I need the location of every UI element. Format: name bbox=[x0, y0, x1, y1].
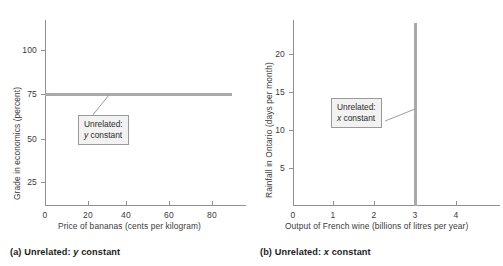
y-tick-a bbox=[41, 182, 45, 183]
x-tick-a bbox=[88, 201, 89, 205]
x-tick-label-a: 40 bbox=[117, 210, 135, 220]
panel-a-caption-prefix: (a) Unrelated: bbox=[10, 247, 73, 257]
x-tick-a bbox=[212, 201, 213, 205]
x-tick-label-b: 2 bbox=[365, 210, 383, 220]
y-tick-a bbox=[41, 139, 45, 140]
plot-area-a: Grade in economics (percent) 100 75 50 2… bbox=[0, 0, 251, 232]
x-tick-label-b: 1 bbox=[324, 210, 342, 220]
y-tick-label-a: 75 bbox=[17, 89, 37, 99]
y-tick-label-b: 5 bbox=[265, 163, 285, 173]
panel-a: Grade in economics (percent) 100 75 50 2… bbox=[0, 0, 251, 266]
x-tick-b bbox=[374, 201, 375, 205]
y-tick-label-b: 15 bbox=[265, 87, 285, 97]
y-tick-label-a: 50 bbox=[17, 134, 37, 144]
panel-a-caption: (a) Unrelated: y constant bbox=[10, 247, 120, 257]
y-tick-b bbox=[289, 54, 293, 55]
callout-a: Unrelated: y constant bbox=[78, 115, 129, 145]
callout-b-line1: Unrelated: bbox=[337, 102, 376, 113]
x-axis-line-a bbox=[45, 205, 246, 206]
y-tick-a bbox=[41, 50, 45, 51]
x-axis-line-b bbox=[293, 205, 500, 206]
panel-b-caption-suffix: constant bbox=[329, 247, 371, 257]
x-tick-b bbox=[456, 201, 457, 205]
x-axis-title-b: Output of French wine (billions of litre… bbox=[285, 221, 468, 231]
y-tick-b bbox=[289, 92, 293, 93]
y-tick-b bbox=[289, 130, 293, 131]
x-tick-label-b: 0 bbox=[284, 210, 302, 220]
plot-area-b: Rainfall in Ontario (days per month) 20 … bbox=[252, 0, 503, 232]
x-tick-b bbox=[333, 201, 334, 205]
callout-b-line2: x constant bbox=[337, 113, 376, 124]
y-axis-line-b bbox=[293, 20, 294, 206]
callout-b: Unrelated: x constant bbox=[331, 98, 382, 128]
x-tick-label-b: 4 bbox=[447, 210, 465, 220]
data-line-y-constant bbox=[45, 93, 232, 96]
y-tick-label-b: 20 bbox=[265, 49, 285, 59]
panel-b: Rainfall in Ontario (days per month) 20 … bbox=[252, 0, 503, 266]
y-tick-label-b: 10 bbox=[265, 125, 285, 135]
x-tick-a bbox=[169, 201, 170, 205]
x-tick-label-b: 3 bbox=[406, 210, 424, 220]
panel-a-caption-suffix: constant bbox=[79, 247, 121, 257]
x-tick-label-a: 20 bbox=[79, 210, 97, 220]
panel-b-caption-prefix: (b) Unrelated: bbox=[260, 247, 324, 257]
callout-leader-a bbox=[90, 95, 120, 117]
figure-unrelated-variables: Grade in economics (percent) 100 75 50 2… bbox=[0, 0, 503, 266]
callout-a-line2: y constant bbox=[84, 130, 123, 141]
callout-leader-b bbox=[385, 108, 417, 122]
x-tick-label-a: 60 bbox=[160, 210, 178, 220]
x-tick-label-a: 80 bbox=[203, 210, 221, 220]
y-tick-label-a: 25 bbox=[17, 177, 37, 187]
panel-b-caption: (b) Unrelated: x constant bbox=[260, 247, 371, 257]
callout-a-line1: Unrelated: bbox=[84, 119, 123, 130]
y-tick-b bbox=[289, 168, 293, 169]
x-axis-title-a: Price of bananas (cents per kilogram) bbox=[58, 221, 201, 231]
y-tick-label-a: 100 bbox=[17, 45, 37, 55]
y-axis-line-a bbox=[45, 20, 46, 206]
x-tick-label-a: 0 bbox=[36, 210, 54, 220]
x-tick-a bbox=[126, 201, 127, 205]
